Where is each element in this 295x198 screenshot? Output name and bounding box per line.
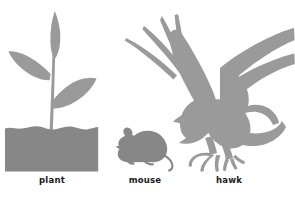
illustration-canvas: plant mouse <box>0 0 295 198</box>
plant-right-leaf-icon <box>52 78 97 109</box>
mouse-label: mouse <box>112 176 178 185</box>
plant-label: plant <box>2 176 102 185</box>
plant-soil-block-icon <box>5 126 98 171</box>
hawk-silhouette-icon <box>125 14 295 172</box>
plant-figure <box>2 8 102 174</box>
plant-top-bud-icon <box>50 11 60 59</box>
hawk-figure <box>124 6 295 172</box>
hawk-label: hawk <box>196 176 262 185</box>
plant-left-leaf-icon <box>9 51 51 80</box>
